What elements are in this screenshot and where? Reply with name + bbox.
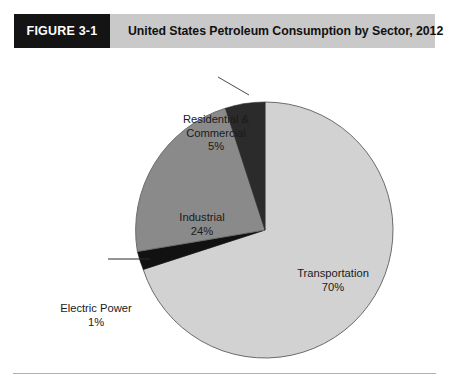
pie-label-industrial-name: Industrial — [154, 211, 250, 225]
pie-label-residential-commercial-line2: Commercial — [157, 127, 275, 141]
pie-label-electric-power: Electric Power 1% — [43, 302, 149, 329]
figure-title-bar: United States Petroleum Consumption by S… — [110, 14, 435, 48]
pie-label-industrial: Industrial 24% — [154, 211, 250, 238]
pie-label-residential-commercial-line1: Residential & — [157, 113, 275, 127]
pie-label-transportation-name: Transportation — [279, 267, 387, 281]
pie-label-residential-commercial: Residential & Commercial 5% — [157, 113, 275, 154]
figure-number-label: FIGURE 3-1 — [27, 24, 98, 38]
pie-value-industrial: 24% — [154, 225, 250, 239]
figure-header: FIGURE 3-1 United States Petroleum Consu… — [14, 14, 435, 48]
leader-line-residential-commercial — [218, 77, 249, 95]
pie-value-electric-power: 1% — [43, 316, 149, 330]
pie-value-transportation: 70% — [279, 281, 387, 295]
figure-container: FIGURE 3-1 United States Petroleum Consu… — [0, 0, 451, 387]
pie-label-electric-power-name: Electric Power — [43, 302, 149, 316]
pie-label-transportation: Transportation 70% — [279, 267, 387, 294]
pie-value-residential-commercial: 5% — [157, 140, 275, 154]
footer-divider — [13, 373, 436, 374]
pie-chart: Residential & Commercial 5% Industrial 2… — [0, 48, 451, 368]
figure-title: United States Petroleum Consumption by S… — [110, 24, 443, 38]
figure-number-badge: FIGURE 3-1 — [14, 14, 110, 48]
